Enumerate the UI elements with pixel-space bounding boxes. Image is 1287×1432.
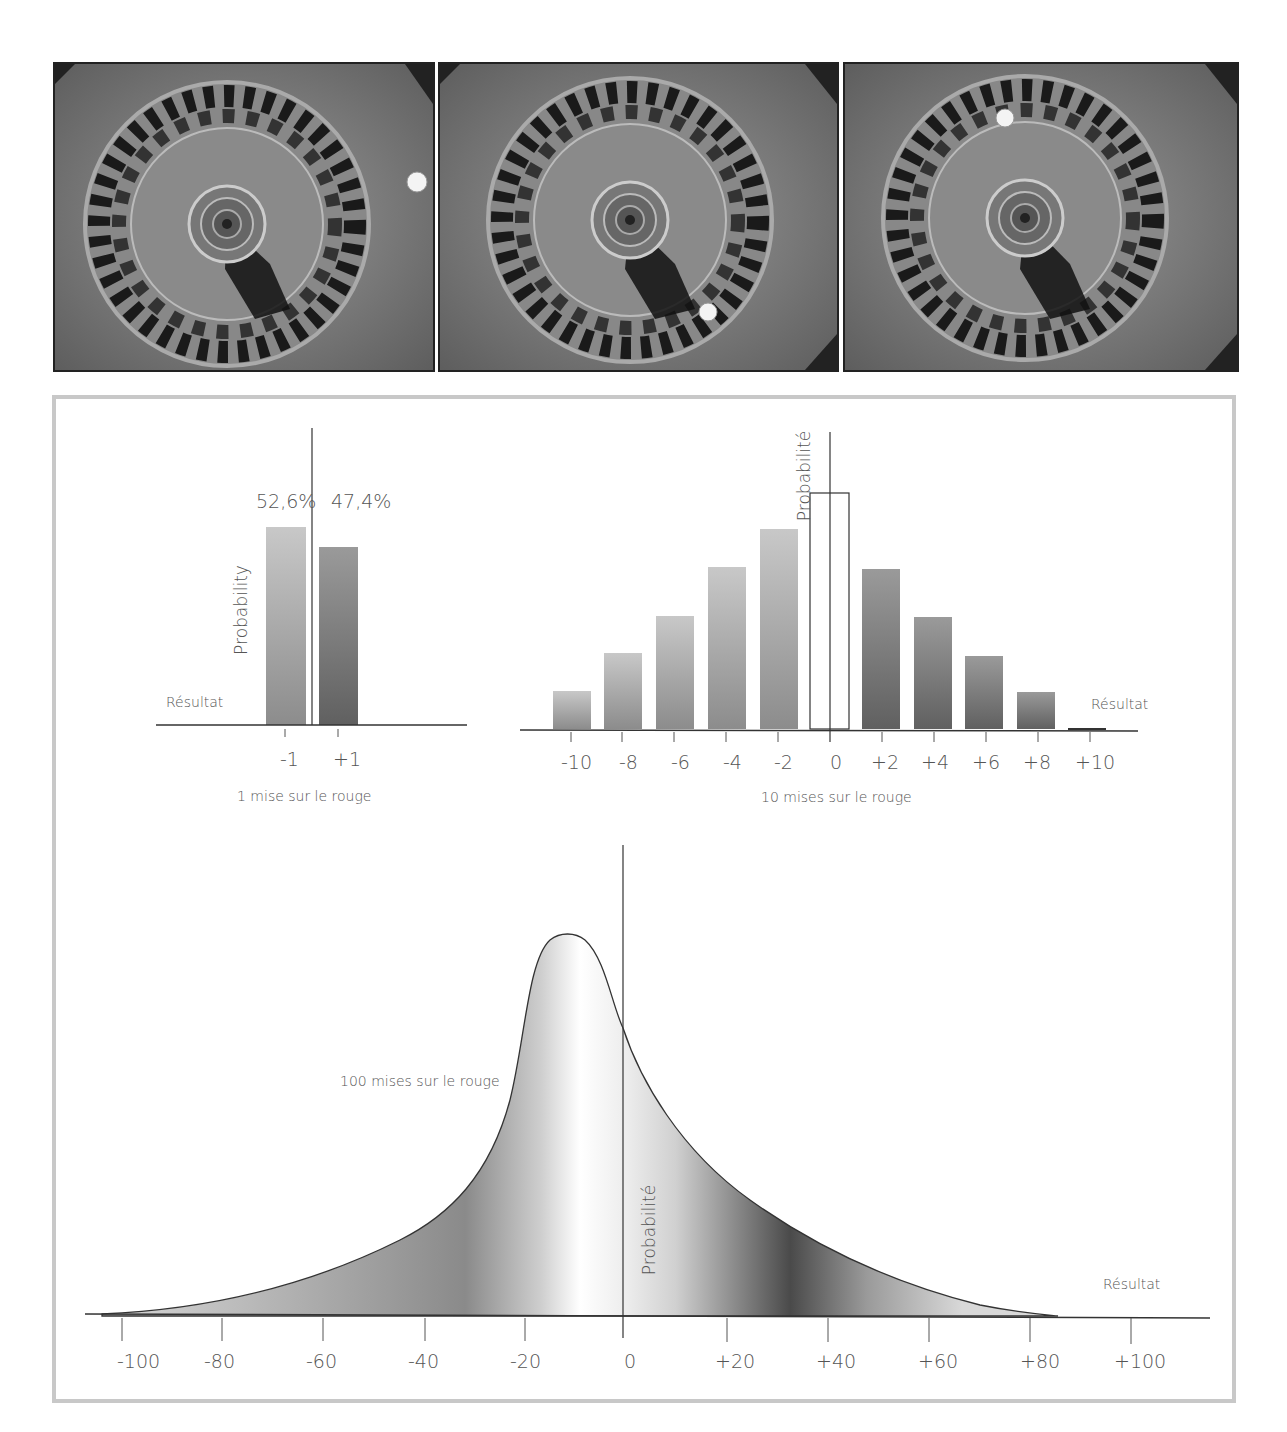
- tick-label: +4: [921, 751, 949, 773]
- bar-+2: [862, 569, 900, 729]
- tick-label: 0: [830, 751, 842, 773]
- tick-label: -100: [117, 1350, 160, 1372]
- bar-minus-1: [266, 527, 306, 725]
- tick-label: -80: [204, 1350, 235, 1372]
- bar--8: [604, 653, 642, 729]
- tick-label: -6: [671, 751, 690, 773]
- tick-label: +100: [1114, 1350, 1166, 1372]
- tick-label: +60: [918, 1350, 958, 1372]
- y-axis-label: Probabilité: [794, 431, 814, 521]
- bar--10: [553, 691, 591, 729]
- tick-label: +1: [333, 748, 361, 770]
- bar-+10: [1068, 728, 1106, 730]
- tick-label: -40: [408, 1350, 439, 1372]
- tick-label: -4: [723, 751, 742, 773]
- bar-plus-1: [319, 547, 358, 725]
- x-axis-label: Résultat: [1091, 696, 1148, 712]
- chart-1-single-bet: [156, 428, 467, 737]
- tick-label: +40: [816, 1350, 856, 1372]
- bar-+8: [1017, 692, 1055, 729]
- x-axis: [520, 730, 1138, 731]
- bar--2: [760, 529, 798, 729]
- tick-label: +80: [1020, 1350, 1060, 1372]
- tick-label: +20: [715, 1350, 755, 1372]
- bar--4: [708, 567, 746, 729]
- ticks: [122, 1318, 1131, 1344]
- x-axis-label: Résultat: [166, 694, 223, 710]
- y-axis-label: Probability: [231, 565, 251, 655]
- tick-label: +8: [1023, 751, 1051, 773]
- x-axis-label: Résultat: [1103, 1276, 1160, 1292]
- tick-label: -8: [619, 751, 638, 773]
- curve-label: 100 mises sur le rouge: [340, 1073, 500, 1089]
- tick-label: -1: [280, 748, 299, 770]
- value-label-minus-1: 52,6%: [256, 490, 316, 512]
- tick-label: -2: [774, 751, 793, 773]
- y-axis-label: Probabilité: [639, 1185, 659, 1275]
- tick-label: +10: [1075, 751, 1115, 773]
- bar-+4: [914, 617, 952, 729]
- tick-label: 0: [624, 1350, 636, 1372]
- value-label-plus-1: 47,4%: [331, 490, 391, 512]
- tick-label: +2: [871, 751, 899, 773]
- tick-label: -10: [561, 751, 592, 773]
- tick-label: -20: [510, 1350, 541, 1372]
- bar--6: [656, 616, 694, 729]
- chart-caption: 10 mises sur le rouge: [761, 789, 912, 805]
- tick-label: +6: [972, 751, 1000, 773]
- distribution-curve: [102, 934, 1058, 1316]
- chart-caption: 1 mise sur le rouge: [237, 788, 371, 804]
- bar-+6: [965, 656, 1003, 729]
- tick-label: -60: [306, 1350, 337, 1372]
- chart-2-ten-bets: [520, 432, 1138, 742]
